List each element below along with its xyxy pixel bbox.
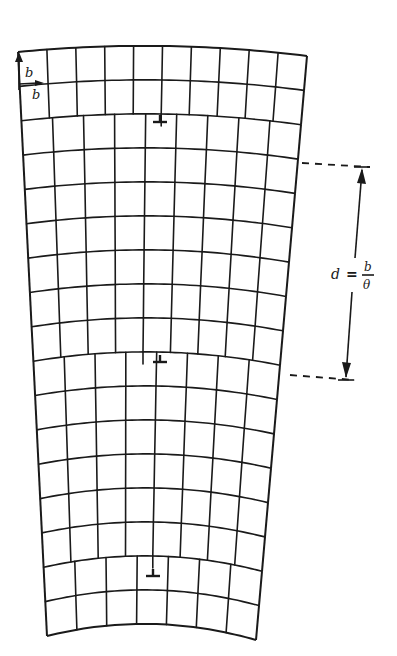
lattice-column-line [271,434,274,468]
lattice-row-line [45,590,259,606]
lattice-column-line [263,189,266,223]
lattice-column-line [183,455,184,489]
lattice-column-line [237,497,239,531]
lattice-column-line [260,224,263,258]
lattice-column-line [229,564,231,598]
lattice-column-line [65,391,66,425]
lattice-column-line [86,252,87,286]
burgers-vertical-label: b [25,65,33,80]
lattice-row-line [23,148,298,159]
lattice-column-line [33,361,35,395]
burgers-horizontal-label: b [32,87,40,102]
lattice-column-line [265,155,268,189]
lattice-column-line [204,184,205,218]
lattice-column-line [48,84,49,118]
edge-dislocation-icon [153,355,167,362]
lattice-column-line [161,80,162,114]
lattice-column-line [155,420,156,454]
lattice-column-line [76,596,77,630]
lattice-column-line [247,50,249,84]
lattice-column-line [255,292,257,326]
lattice-row-line [47,624,256,640]
lattice-column-line [217,356,219,390]
lattice-column-line [292,193,295,227]
lattice-column-line [198,320,199,354]
lattice-column-line [58,289,59,323]
lattice-column-line [180,523,181,557]
lattice-column-line [189,81,190,115]
lattice-column-line [45,602,47,636]
lattice-column-line [153,522,154,556]
lattice-column-line [237,118,239,152]
lattice-column-line [44,567,46,601]
lattice-column-line [42,533,44,567]
lattice-column-line [259,571,262,605]
lattice-column-line [280,331,283,365]
lattice-column-line [30,293,32,327]
lattice-column-line [86,218,87,252]
lattice-column-line [186,353,187,387]
lattice-column-line [205,150,207,184]
lattice-column-line [60,323,61,357]
lattice-column-line [219,48,221,82]
lattice-column-line [295,159,298,193]
lattice-column-line [40,499,42,533]
lattice-column-line [209,492,211,526]
lattice-column-line [66,425,67,459]
lattice-column-line [96,388,97,422]
lattice-column-line [276,53,279,87]
lattice-column-line [85,184,86,218]
lattice-column-line [57,255,58,289]
lattice-column-line [155,386,156,420]
lattice-column-line [84,150,85,184]
lattice-column-line [172,250,173,284]
lattice-column-line [69,494,70,528]
lattice-column-line [245,84,247,118]
fraction-numerator: b [364,260,372,274]
lattice-column-line [190,47,191,81]
lattice-column-line [88,320,89,354]
lattice-column-line [20,86,22,120]
lattice-column-line [25,189,27,223]
lattice-column-line [47,50,48,84]
lattice-column-line [154,454,155,488]
lattice-column-line [226,598,228,632]
fraction-denominator: θ [363,278,371,292]
tilt-boundary-diagram: b b d = b θ [0,0,397,656]
lattice-column-line [170,318,171,352]
lattice-column-line [166,591,167,625]
lattice-column-line [304,56,307,90]
lattice-column-line [265,503,268,537]
lattice-row-line [28,250,289,262]
lattice-column-line [77,82,78,116]
lattice-column-line [211,458,213,492]
lattice-column-line [76,48,77,82]
lattice-column-line [32,327,34,361]
lattice-column-line [55,186,56,220]
lattice-column-line [256,606,259,640]
spacing-symbol: d [331,266,340,282]
lattice-column-line [277,365,280,399]
lattice-column-line [289,228,292,262]
lattice-column-line [181,489,182,523]
lattice-column-line [233,186,235,220]
lattice-row-line [25,182,295,194]
arrow-down-icon [342,362,351,378]
lattice-column-line [97,490,98,524]
lattice-column-line [231,220,233,254]
lattice-column-line [235,152,237,186]
lattice-column-line [153,488,154,522]
lattice-column-line [253,326,256,360]
lattice-row-line [27,216,293,228]
lattice-column-line [87,286,88,320]
lattice-column-line [215,390,217,424]
lattice-column-line [162,46,163,80]
spacing-dimension: d = b θ [290,163,374,380]
lattice-column-line [64,357,65,391]
lattice-column-line [274,400,277,434]
lattice-column-line [247,360,249,394]
lattice-column-line [167,557,168,591]
lattice-column-line [286,262,289,296]
lattice-column-line [229,254,231,288]
crystal-lattice-grid [18,46,307,640]
